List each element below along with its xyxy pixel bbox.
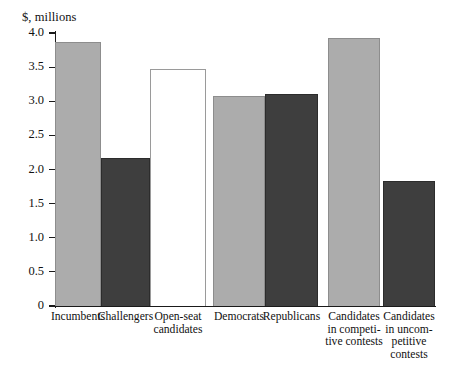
y-axis-tick-label: 0.5 xyxy=(4,265,44,278)
y-axis-tick-label: 3.5 xyxy=(4,60,44,73)
y-axis-tick-label: 1.0 xyxy=(4,231,44,244)
y-axis-tick-label: 4.0 xyxy=(4,26,44,39)
y-axis-tick-label: 2.5 xyxy=(4,128,44,141)
bar xyxy=(265,94,318,306)
x-axis-label: Candidates in uncom- petitive contests xyxy=(364,311,449,361)
bar xyxy=(101,158,150,306)
bar-chart: $, millions 00.51.01.52.02.53.03.54.0 In… xyxy=(0,0,449,368)
bar xyxy=(55,42,101,306)
y-axis-tick-label: 1.5 xyxy=(4,197,44,210)
bar xyxy=(213,96,265,306)
y-axis-tick-label: 0 xyxy=(4,299,44,312)
y-axis-title: $, millions xyxy=(22,10,77,25)
bar xyxy=(150,69,206,306)
bar xyxy=(383,181,435,306)
plot-area xyxy=(55,33,435,306)
y-axis-tick-label: 2.0 xyxy=(4,163,44,176)
bar xyxy=(328,38,380,306)
x-axis-line xyxy=(54,306,436,307)
y-axis-tick-label: 3.0 xyxy=(4,94,44,107)
